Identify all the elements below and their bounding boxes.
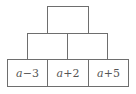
pyramid-top-cell xyxy=(47,6,89,34)
expression-label: a+5 xyxy=(97,67,120,80)
pyramid-middle-left-cell xyxy=(27,33,68,60)
expression-label: a−3 xyxy=(16,67,39,80)
pyramid-bottom-left-cell: a−3 xyxy=(7,59,48,87)
expression-label: a+2 xyxy=(57,67,80,80)
pyramid-middle-right-cell xyxy=(67,33,108,60)
pyramid-bottom-middle-cell: a+2 xyxy=(47,59,89,87)
pyramid-bottom-right-cell: a+5 xyxy=(88,59,129,87)
